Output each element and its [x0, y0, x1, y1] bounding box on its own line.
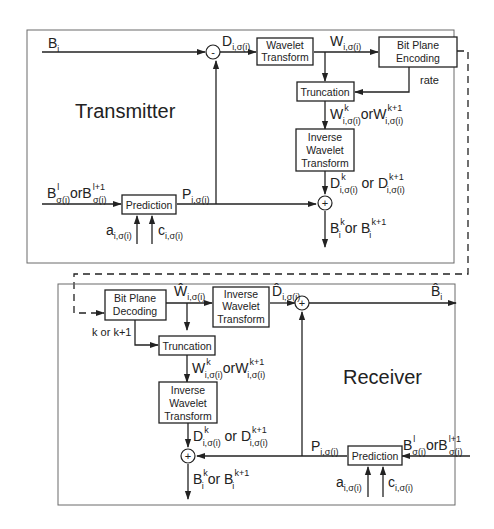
- svg-text:Prediction: Prediction: [352, 450, 399, 462]
- receiver-section: Receiver + + Bit Plane Decoding: [58, 283, 470, 505]
- signal-input-label: Bi: [48, 35, 59, 54]
- truncation-block: Truncation: [297, 82, 354, 101]
- truncation-block: Truncation: [159, 336, 215, 355]
- signal-prediction-out-label: Pi,σ(i): [182, 186, 209, 205]
- signal-reconstructed-diff-label: Dki,σ(i) or Dk+1i,σ(i): [330, 172, 405, 195]
- svg-text:Transform: Transform: [217, 313, 265, 325]
- signal-decoded-coeffs-label: Ŵi,σ(i): [174, 283, 205, 302]
- svg-text:Inverse: Inverse: [308, 131, 343, 143]
- svg-text:Bit Plane: Bit Plane: [397, 39, 439, 51]
- svg-text:Wavelet: Wavelet: [222, 300, 260, 312]
- svg-text:Truncation: Truncation: [162, 340, 211, 352]
- wire-rate-to-truncation: [355, 67, 409, 92]
- svg-text:Bit Plane: Bit Plane: [114, 292, 156, 304]
- svg-text:+: +: [322, 197, 328, 209]
- signal-output-label: Bki or Bk+1i: [193, 468, 249, 491]
- receiver-title: Receiver: [343, 366, 422, 388]
- subtractor-node: -: [206, 45, 220, 59]
- transmitter-title: Transmitter: [75, 100, 176, 122]
- svg-text:Inverse: Inverse: [171, 384, 206, 396]
- adder-bottom-node: +: [181, 449, 195, 463]
- svg-text:Wavelet: Wavelet: [266, 39, 304, 51]
- signal-difference-label: Di,σ(i): [222, 33, 250, 52]
- signal-coefficients-label: Wi,σ(i): [330, 33, 361, 52]
- svg-text:Inverse: Inverse: [224, 288, 259, 300]
- wire-layer-select-to-truncation: [135, 320, 158, 345]
- signal-prediction-out-label: Pi,σ(i): [311, 438, 338, 457]
- svg-text:Decoding: Decoding: [113, 305, 158, 317]
- signal-reconstructed-diff-label: Dki,σ(i) or Dk+1i,σ(i): [193, 425, 268, 448]
- signal-output-label: Bki or Bk+1i: [330, 217, 386, 240]
- signal-reference-label: Blσ(i)orBl+1σ(i): [47, 182, 107, 205]
- svg-text:Truncation: Truncation: [300, 86, 349, 98]
- bit-plane-encoding-block: Bit Plane Encoding: [379, 37, 457, 67]
- signal-reference-label: Blσ(i)orBl+1σ(i): [403, 434, 463, 457]
- signal-truncated-label: Wki,σ(i)orWk+1i,σ(i): [192, 357, 265, 380]
- signal-param-a-label: ai,σ(i): [106, 222, 132, 241]
- svg-text:Transform: Transform: [301, 157, 349, 169]
- prediction-block: Prediction: [122, 195, 176, 214]
- svg-text:Wavelet: Wavelet: [306, 144, 344, 156]
- adder-node: +: [318, 196, 332, 210]
- signal-output-hat-label: B̂i: [431, 283, 442, 302]
- signal-param-c-label: ci,σ(i): [388, 474, 413, 493]
- svg-text:Prediction: Prediction: [126, 199, 173, 211]
- svg-text:Transform: Transform: [164, 410, 212, 422]
- inverse-wavelet-transform-block: Inverse Wavelet Transform: [159, 382, 217, 423]
- signal-decoded-diff-label: D̂i,σ(i): [272, 283, 300, 302]
- svg-text:+: +: [185, 450, 191, 462]
- signal-truncated-label: Wki,σ(i)orWk+1i,σ(i): [330, 103, 403, 126]
- wavelet-transform-block: Wavelet Transform: [257, 38, 313, 65]
- signal-rate-label: rate: [420, 74, 439, 86]
- bit-plane-decoding-block: Bit Plane Decoding: [105, 290, 166, 320]
- svg-text:Transform: Transform: [261, 51, 309, 63]
- inverse-wavelet-transform-block: Inverse Wavelet Transform: [296, 129, 354, 171]
- signal-param-a-label: ai,σ(i): [336, 474, 362, 493]
- signal-layer-select-label: k or k+1: [92, 326, 131, 338]
- svg-text:Encoding: Encoding: [396, 52, 440, 64]
- svg-text:-: -: [211, 46, 215, 58]
- transmitter-section: Transmitter - + Wavelet Transform: [27, 30, 457, 263]
- svg-text:Wavelet: Wavelet: [169, 397, 207, 409]
- signal-param-c-label: ci,σ(i): [158, 222, 183, 241]
- inverse-wavelet-transform-top-block: Inverse Wavelet Transform: [213, 287, 269, 327]
- codec-block-diagram: Transmitter - + Wavelet Transform: [0, 0, 494, 529]
- prediction-block: Prediction: [348, 446, 402, 465]
